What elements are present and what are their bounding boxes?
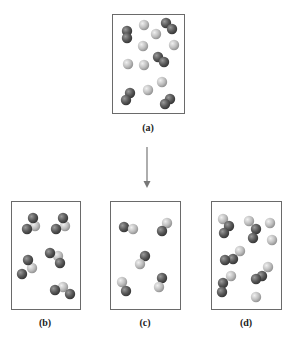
dark-atom — [51, 224, 61, 234]
dark-atom — [217, 287, 227, 297]
light-atom — [138, 41, 148, 51]
dark-atom — [157, 226, 167, 236]
light-atom — [251, 292, 261, 302]
dark-atom — [160, 99, 170, 109]
dark-atom — [119, 222, 129, 232]
light-atom — [267, 235, 277, 245]
light-atom — [143, 85, 153, 95]
panel-label-b: (b) — [39, 317, 51, 329]
dark-diatomic-molecule — [122, 26, 132, 43]
light-atom — [265, 218, 275, 228]
dark-atom — [28, 213, 38, 223]
dark-atom — [23, 255, 33, 265]
light-atom — [267, 235, 277, 245]
panel-label-c: (c) — [139, 317, 150, 329]
light-atom — [169, 40, 179, 50]
dark-atom — [121, 286, 131, 296]
light-atom — [169, 40, 179, 50]
light-atom — [123, 59, 133, 69]
dark-atom — [218, 278, 228, 288]
light-atom — [139, 60, 149, 70]
reaction-arrow — [144, 147, 151, 188]
light-atom — [235, 246, 245, 256]
light-atom — [226, 271, 236, 281]
light-atom — [138, 41, 148, 51]
light-atom — [265, 218, 275, 228]
dark-atom — [122, 33, 132, 43]
dark-atom — [251, 274, 261, 284]
panel-b: (b) — [12, 202, 81, 330]
reaction-diagram: (a) (b) (c) (d) — [0, 0, 300, 343]
panel-d: (d) — [212, 202, 282, 330]
light-atom — [139, 60, 149, 70]
light-atom — [143, 85, 153, 95]
panel-c: (c) — [111, 202, 181, 330]
dark-atom — [220, 255, 230, 265]
light-atom — [139, 20, 149, 30]
light-atom — [123, 59, 133, 69]
dark-atom — [45, 248, 55, 258]
light-atom — [154, 282, 164, 292]
dark-atom — [17, 269, 27, 279]
light-atom — [128, 224, 138, 234]
dark-atom — [251, 224, 261, 234]
light-atom — [244, 216, 254, 226]
panel-a: (a) — [113, 15, 185, 135]
light-atom — [117, 277, 127, 287]
dark-atom — [219, 228, 229, 238]
dark-atom — [121, 95, 131, 105]
dark-atom — [22, 224, 32, 234]
dark-atom — [159, 57, 169, 67]
panel-label-d: (d) — [240, 317, 252, 329]
dark-atom — [157, 273, 167, 283]
dark-atom — [55, 258, 65, 268]
light-atom — [251, 292, 261, 302]
light-atom — [139, 20, 149, 30]
dark-atom — [248, 233, 258, 243]
light-atom — [151, 29, 161, 39]
panel-label-a: (a) — [142, 122, 154, 134]
dark-atom — [50, 285, 60, 295]
dark-atom — [65, 289, 75, 299]
light-atom — [151, 29, 161, 39]
light-atom — [157, 77, 167, 87]
light-atom — [263, 262, 273, 272]
light-atom — [135, 259, 145, 269]
dark-atom — [167, 24, 177, 34]
dark-atom — [58, 213, 68, 223]
arrow-head-icon — [144, 181, 151, 188]
light-atom — [157, 77, 167, 87]
